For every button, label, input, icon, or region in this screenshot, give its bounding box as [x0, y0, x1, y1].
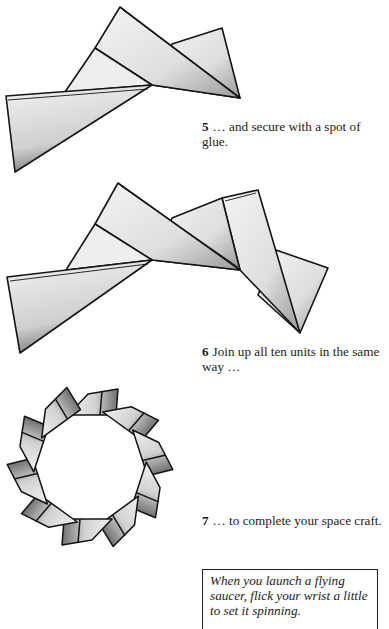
tip-note-box: When you launch a flying saucer, flick y… [202, 569, 378, 629]
step-number: 6 [202, 344, 209, 359]
step-text: Join up all ten units in the same way … [202, 344, 379, 374]
ring-hole [41, 418, 139, 516]
step-number: 7 [202, 513, 209, 528]
paper-unit-lower-left [7, 260, 152, 353]
figure-step-6-diagram [0, 175, 340, 365]
step-6-caption: 6Join up all ten units in the same way … [202, 345, 388, 374]
step-text: … to complete your space craft. [213, 513, 382, 528]
step-7-caption: 7… to complete your space craft. [202, 514, 388, 529]
figure-step-7-ring-diagram [0, 385, 180, 565]
step-text: … and secure with a spot of glue. [202, 119, 361, 149]
tip-note-text: When you launch a flying saucer, flick y… [210, 573, 368, 618]
step-5-caption: 5… and secure with a spot of glue. [202, 120, 388, 149]
step-number: 5 [202, 119, 209, 134]
figure-step-5-diagram [0, 0, 260, 180]
